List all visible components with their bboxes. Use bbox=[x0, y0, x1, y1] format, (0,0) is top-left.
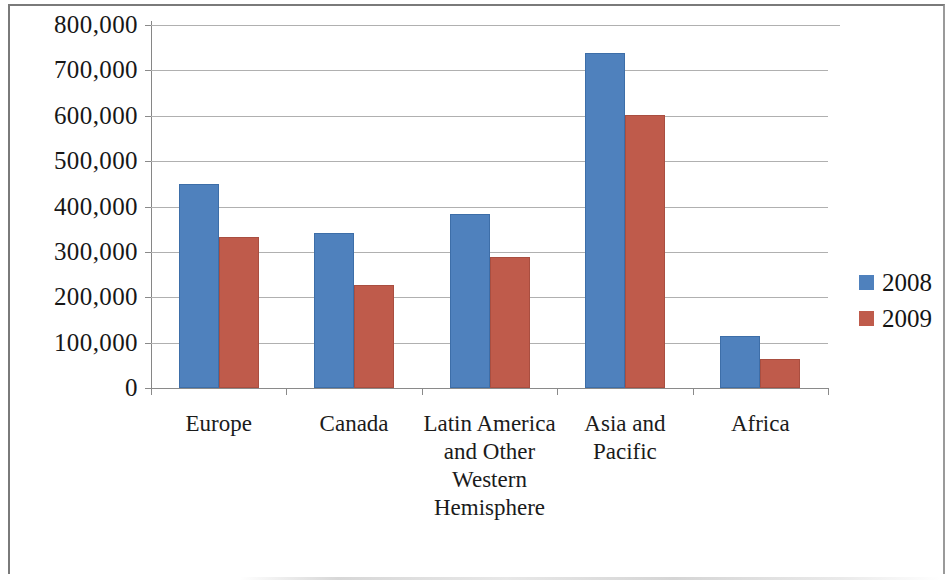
bar bbox=[179, 184, 219, 388]
bar bbox=[490, 257, 530, 388]
x-axis-category-label: Canada bbox=[280, 410, 428, 438]
chart-frame: 800,000700,000600,000500,000400,000300,0… bbox=[8, 4, 945, 574]
gridline bbox=[151, 70, 828, 71]
y-axis-tick bbox=[145, 161, 151, 162]
x-axis-category-label: Asia and Pacific bbox=[551, 410, 699, 466]
bar bbox=[314, 233, 354, 388]
bar bbox=[760, 359, 800, 388]
gridline bbox=[151, 388, 828, 389]
bar bbox=[585, 53, 625, 388]
bar bbox=[354, 285, 394, 388]
y-axis-tick bbox=[145, 116, 151, 117]
y-axis-tick bbox=[145, 343, 151, 344]
y-axis-tick bbox=[145, 25, 151, 26]
y-axis-tick bbox=[145, 207, 151, 208]
x-axis-tick bbox=[422, 388, 423, 395]
y-axis-tick-label: 200,000 bbox=[10, 284, 138, 309]
y-axis-tick-label: 300,000 bbox=[10, 239, 138, 264]
y-axis-tick bbox=[145, 252, 151, 253]
x-axis-tick bbox=[151, 388, 152, 395]
y-axis-tick-label: 500,000 bbox=[10, 148, 138, 173]
legend-swatch-icon bbox=[859, 275, 874, 290]
legend-swatch-icon bbox=[859, 311, 874, 326]
x-axis-tick bbox=[557, 388, 558, 395]
x-axis-category-label: Latin America and Other Western Hemisphe… bbox=[416, 410, 564, 522]
gridline bbox=[151, 207, 828, 208]
x-axis-category-label: Europe bbox=[145, 410, 293, 438]
x-axis-tick bbox=[828, 388, 829, 395]
gridline bbox=[151, 161, 828, 162]
plot-area bbox=[151, 25, 828, 388]
bar bbox=[720, 336, 760, 388]
y-axis-tick bbox=[145, 297, 151, 298]
bar bbox=[450, 214, 490, 388]
y-axis-tick-label: 800,000 bbox=[10, 12, 138, 37]
x-axis-tick bbox=[693, 388, 694, 395]
chart-legend: 20082009 bbox=[859, 264, 932, 336]
legend-label: 2008 bbox=[882, 270, 932, 295]
y-axis-tick-label: 100,000 bbox=[10, 330, 138, 355]
y-axis-tick-label: 700,000 bbox=[10, 57, 138, 82]
y-axis-tick bbox=[145, 70, 151, 71]
bar bbox=[219, 237, 259, 388]
y-axis-tick-label: 600,000 bbox=[10, 103, 138, 128]
legend-label: 2009 bbox=[882, 306, 932, 331]
gridline bbox=[151, 25, 840, 26]
x-axis-tick bbox=[286, 388, 287, 395]
y-axis-tick-label: 0 bbox=[10, 375, 138, 400]
legend-item: 2009 bbox=[859, 300, 932, 336]
gridline bbox=[151, 116, 828, 117]
bar bbox=[625, 115, 665, 388]
x-axis-category-label: Africa bbox=[686, 410, 834, 438]
legend-item: 2008 bbox=[859, 264, 932, 300]
y-axis-tick-label: 400,000 bbox=[10, 194, 138, 219]
